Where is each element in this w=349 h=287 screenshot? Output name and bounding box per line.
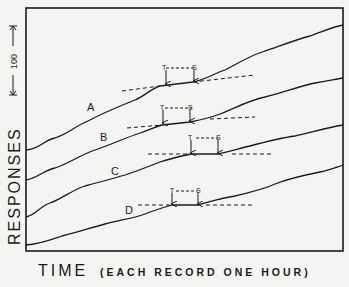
cumulative-record-chart: A B C D T S T S T S T S 100 RESPONSES TI…	[0, 0, 349, 287]
s-label-d: S	[196, 187, 201, 194]
t-label-a: T	[162, 64, 167, 71]
s-label-a: S	[192, 64, 197, 71]
s-label-c: S	[216, 134, 221, 141]
x-axis-note: (EACH RECORD ONE HOUR)	[100, 266, 311, 278]
curve-label-a: A	[87, 101, 95, 113]
curve-label-c: C	[111, 165, 119, 177]
t-label-b: T	[160, 104, 165, 111]
curve-label-d: D	[125, 204, 133, 216]
s-label-b: S	[188, 104, 193, 111]
curve-d	[26, 165, 343, 245]
y-axis-label: RESPONSES	[6, 127, 23, 245]
x-axis-label: TIME	[38, 262, 88, 279]
scale-bar-label: 100	[9, 54, 19, 69]
curve-label-b: B	[100, 131, 107, 143]
curve-c	[26, 125, 343, 217]
t-label-d: T	[170, 187, 175, 194]
t-label-c: T	[188, 134, 193, 141]
plot-frame	[26, 8, 343, 251]
